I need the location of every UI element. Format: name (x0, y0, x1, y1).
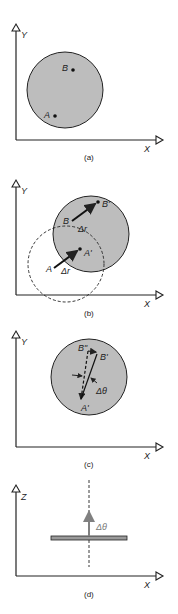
caption-b: (b) (84, 309, 94, 318)
point-b-prime (96, 200, 100, 204)
point-b-label: B (63, 216, 69, 226)
z-axis (12, 485, 20, 576)
x-axis-label: X (143, 580, 151, 590)
y-axis (12, 24, 20, 140)
panel-b: Y X B B' Δr A A' Δr (b) (12, 180, 163, 318)
point-a-label: A (43, 110, 50, 120)
axis-arrow-icon (12, 331, 20, 338)
caption-c: (c) (84, 460, 94, 469)
y-axis (12, 331, 20, 447)
point-b-prime-label: B' (102, 199, 110, 209)
point-a-label: A (45, 264, 52, 274)
axis-arrow-icon (12, 485, 20, 492)
point-b-prime-label: B' (100, 352, 108, 362)
x-axis-label: X (143, 451, 151, 461)
axis-arrow-icon (12, 24, 20, 31)
point-b-label: B (62, 63, 68, 73)
y-axis-label: Y (21, 186, 28, 196)
caption-d: (d) (84, 590, 94, 599)
y-axis-label: Y (21, 337, 28, 347)
point-b (71, 68, 75, 72)
point-a (53, 114, 57, 118)
axis-arrow-icon (156, 291, 163, 299)
disk-edge-view (51, 536, 127, 540)
delta-theta-label: Δθ (95, 522, 107, 532)
delta-r-label-b: Δr (77, 224, 88, 234)
x-axis (16, 443, 163, 451)
y-axis-label: Y (21, 30, 28, 40)
x-axis-label: X (143, 299, 151, 309)
x-axis-label: X (143, 144, 151, 154)
caption-a: (a) (84, 153, 94, 162)
delta-theta-label: Δθ (95, 386, 107, 396)
z-axis-label: Z (20, 492, 27, 502)
point-a-prime-label: A' (83, 248, 92, 258)
x-axis (16, 291, 163, 299)
panel-c: Y X B" B' A' Δθ (c) (12, 331, 163, 469)
point-a-prime (78, 247, 82, 251)
delta-r-label-a: Δr (60, 266, 71, 276)
x-axis (16, 572, 163, 580)
y-axis (12, 180, 20, 295)
panel-a: Y X B A (a) (12, 24, 163, 162)
axis-arrow-icon (12, 180, 20, 187)
x-axis (16, 136, 163, 144)
axis-arrow-icon (156, 572, 163, 580)
point-b-double-prime-label: B" (78, 343, 88, 353)
axis-arrow-icon (156, 443, 163, 451)
panel-d: Z X Δθ (d) (12, 480, 163, 599)
axis-arrow-icon (156, 136, 163, 144)
point-a-prime-label: A' (80, 403, 89, 413)
rigid-body-motion-diagram: Y X B A (a) Y X B B' Δr A A' Δr (b) (0, 0, 178, 614)
